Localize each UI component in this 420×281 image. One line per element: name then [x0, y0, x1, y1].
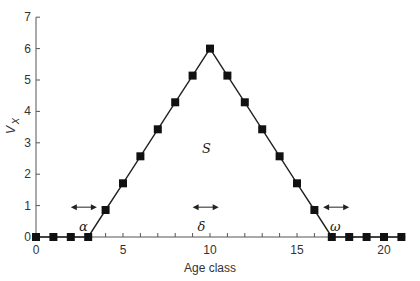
x-axis-title: Age class [184, 261, 236, 275]
x-tick-label: 0 [33, 243, 40, 257]
omega-label: ω [330, 219, 341, 234]
data-point-marker [258, 125, 266, 133]
data-point-marker [310, 206, 318, 214]
arrow-head-right-icon [343, 204, 349, 210]
alpha-label: α [79, 219, 88, 234]
data-point-marker [206, 45, 214, 53]
y-axis-title-sub: x [8, 117, 22, 125]
data-point-marker [241, 98, 249, 106]
data-point-marker [49, 233, 57, 241]
annotations: αδωS [71, 141, 349, 235]
y-tick-label: 2 [24, 167, 31, 181]
y-tick-label: 6 [24, 42, 31, 56]
y-tick-label: 4 [24, 104, 31, 118]
arrow-head-right-icon [213, 204, 219, 210]
data-point-marker [293, 179, 301, 187]
arrow-head-left-icon [71, 204, 77, 210]
data-point-marker [345, 233, 353, 241]
y-tick-label: 3 [24, 136, 31, 150]
data-point-marker [154, 125, 162, 133]
data-point-marker [276, 152, 284, 160]
data-point-marker [363, 233, 371, 241]
x-tick-label: 10 [203, 243, 217, 257]
y-tick-label: 0 [24, 230, 31, 244]
series-line [36, 49, 401, 237]
data-point-marker [84, 233, 92, 241]
data-point-marker [119, 179, 127, 187]
x-tick-label: 15 [290, 243, 304, 257]
chart: 0123456705101520 αδωS Age class V x [0, 0, 420, 281]
delta-label: δ [197, 219, 205, 234]
y-tick-label: 7 [24, 10, 31, 24]
x-tick-label: 20 [377, 243, 391, 257]
data-point-marker [67, 233, 75, 241]
data-point-marker [102, 206, 110, 214]
y-tick-label: 1 [24, 199, 31, 213]
data-series [32, 45, 405, 241]
data-point-marker [397, 233, 405, 241]
arrow-head-right-icon [91, 204, 97, 210]
data-point-marker [32, 233, 40, 241]
data-point-marker [136, 152, 144, 160]
data-point-marker [189, 72, 197, 80]
arrow-head-left-icon [323, 204, 329, 210]
data-point-marker [223, 72, 231, 80]
y-tick-label: 5 [24, 73, 31, 87]
s-label: S [202, 141, 211, 156]
x-tick-label: 5 [120, 243, 127, 257]
arrow-head-left-icon [193, 204, 199, 210]
y-axis-title-main: V [4, 125, 18, 134]
data-point-marker [328, 233, 336, 241]
y-axis-title: V x [4, 117, 22, 134]
data-point-marker [380, 233, 388, 241]
data-point-marker [171, 98, 179, 106]
